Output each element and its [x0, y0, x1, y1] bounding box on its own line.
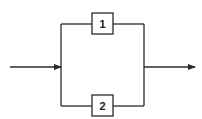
block-2-label: 2	[92, 95, 113, 116]
block-1-label: 1	[92, 13, 113, 34]
